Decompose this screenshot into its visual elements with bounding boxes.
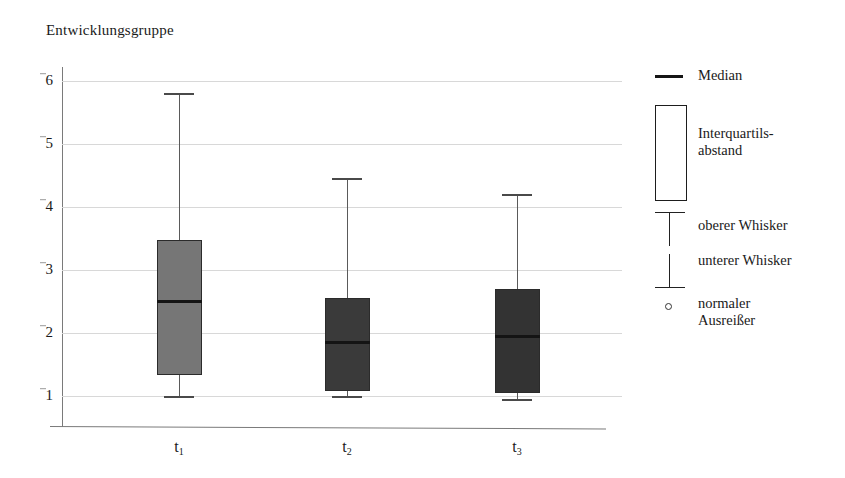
median-line	[495, 335, 540, 338]
x-axis-tick-label: t1	[174, 438, 183, 456]
x-axis-tick-label: t2	[342, 438, 351, 456]
lower-whisker-cap	[502, 399, 532, 401]
upper-whisker-cap	[502, 194, 532, 196]
legend-median-glyph	[655, 75, 683, 78]
legend-label-outlier: normaler Ausreißer	[698, 295, 755, 329]
median-line	[325, 341, 370, 344]
boxplot-box	[325, 298, 370, 391]
legend-outlier-glyph	[665, 303, 672, 310]
lower-whisker-cap	[332, 396, 362, 398]
x-axis-tick-label: t3	[512, 438, 521, 456]
legend-lower-whisker-glyph	[655, 252, 685, 288]
legend-iqr-glyph	[655, 105, 687, 201]
x-axis-line	[50, 426, 606, 429]
gridline	[62, 81, 622, 82]
legend-label-iqr: Interquartils- abstand	[698, 125, 774, 159]
chart-legend: Median Interquartils- abstand oberer Whi…	[650, 56, 845, 356]
y-axis-tick-label: 3	[46, 262, 54, 277]
boxplot-box	[157, 240, 202, 376]
legend-label-lower-whisker: unterer Whisker	[698, 252, 792, 269]
gridline	[62, 144, 622, 145]
upper-whisker-stem	[347, 178, 348, 297]
legend-upper-whisker-glyph	[655, 212, 685, 248]
boxplot-figure: Entwicklungsgruppe 123456 t1t2t3 Median …	[0, 0, 845, 478]
page-title: Entwicklungsgruppe	[46, 22, 174, 39]
y-axis-tick-label: 2	[46, 325, 54, 340]
y-axis-tick-mark	[40, 389, 46, 390]
legend-label-median: Median	[698, 67, 742, 84]
boxplot-box	[495, 289, 540, 393]
y-axis-tick-label: 4	[46, 199, 54, 214]
upper-whisker-stem	[179, 93, 180, 239]
y-axis-tick-mark	[40, 136, 46, 137]
y-axis-tick-label: 5	[46, 136, 54, 151]
lower-whisker-stem	[179, 375, 180, 396]
upper-whisker-stem	[517, 194, 518, 289]
gridline	[62, 207, 622, 208]
y-axis-tick-mark	[40, 199, 46, 200]
upper-whisker-cap	[332, 178, 362, 180]
legend-label-upper-whisker: oberer Whisker	[698, 217, 788, 234]
y-axis-tick-mark	[40, 262, 46, 263]
lower-whisker-cap	[164, 396, 194, 398]
y-axis-tick-label: 6	[46, 73, 54, 88]
y-axis-tick-mark	[40, 73, 46, 74]
y-axis-tick-label: 1	[46, 389, 54, 404]
y-axis-tick-mark	[40, 325, 46, 326]
median-line	[157, 300, 202, 303]
upper-whisker-cap	[164, 93, 194, 95]
plot-area: 123456	[62, 68, 622, 414]
gridline	[62, 270, 622, 271]
